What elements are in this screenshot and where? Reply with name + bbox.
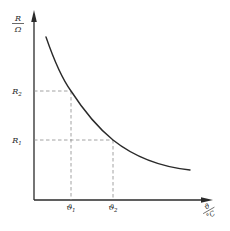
y-tick-r2-main: R bbox=[11, 87, 18, 96]
guide-lines bbox=[34, 91, 113, 200]
y-tick-r1-sub: 1 bbox=[18, 140, 22, 146]
svg-text:ϑ2: ϑ2 bbox=[108, 203, 118, 213]
resistance-temperature-diagram: R Ω ϑ °C R2 R1 ϑ1 ϑ2 bbox=[0, 0, 230, 231]
resistance-curve bbox=[46, 37, 190, 170]
y-axis-label-numerator: R bbox=[14, 14, 21, 23]
svg-text:R2: R2 bbox=[11, 87, 22, 97]
y-axis bbox=[31, 10, 37, 200]
y-tick-r2: R2 bbox=[11, 87, 22, 97]
y-axis-label: R Ω bbox=[12, 14, 24, 34]
x-tick-theta2-sub: 2 bbox=[113, 207, 118, 213]
x-axis bbox=[34, 197, 213, 203]
y-tick-r2-sub: 2 bbox=[17, 91, 22, 97]
svg-text:R1: R1 bbox=[11, 136, 22, 146]
x-tick-theta2: ϑ2 bbox=[108, 203, 118, 213]
x-axis-label: ϑ °C bbox=[199, 200, 219, 221]
y-axis-label-denominator: Ω bbox=[14, 25, 22, 34]
y-axis-arrow-icon bbox=[31, 10, 37, 22]
x-tick-theta1-sub: 1 bbox=[72, 207, 76, 213]
svg-text:ϑ1: ϑ1 bbox=[66, 203, 75, 213]
x-tick-theta1: ϑ1 bbox=[66, 203, 75, 213]
y-tick-r1: R1 bbox=[11, 136, 22, 146]
y-tick-r1-main: R bbox=[11, 136, 18, 145]
